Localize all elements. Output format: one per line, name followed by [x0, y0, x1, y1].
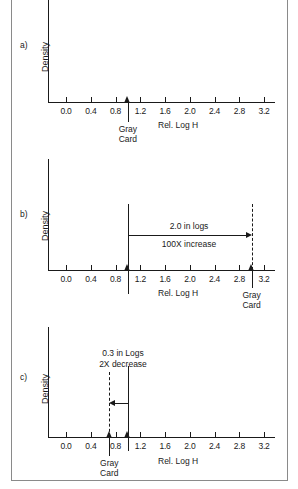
panel-a-y-axis	[48, 0, 49, 102]
panel-a-tick-3	[140, 97, 141, 102]
panel-b-ticklabel-3: 1.2	[128, 274, 152, 284]
panel-b-tick-4	[165, 265, 166, 270]
panel-c-gray-card-label-line2: Card	[100, 468, 118, 478]
panel-c-measure-arrowhead	[109, 400, 115, 406]
panel-a-ticklabel-0: 0.0	[54, 106, 78, 116]
panel-a-x-axis	[48, 102, 275, 103]
panel-b-gray-card-stem	[252, 270, 253, 288]
panel-c: c) Density 0.0 0.4 0.8 1.2 1.6 2.0 2.4 2…	[0, 326, 298, 489]
panel-c-ticklabel-7: 2.8	[227, 441, 251, 451]
panel-b-ticklabel-0: 0.0	[54, 274, 78, 284]
panel-b-ticklabel-8: 3.2	[252, 274, 276, 284]
panel-b-measure-arrow-shaft	[128, 235, 246, 236]
panel-c-x-axis-title: Rel. Log H	[158, 456, 198, 466]
panel-c-measure-arrow-shaft	[115, 403, 128, 404]
panel-c-y-axis	[48, 327, 49, 437]
panel-a-ticklabel-6: 2.4	[203, 106, 227, 116]
panel-c-reference-arrowhead	[124, 431, 130, 438]
panel-b-tick-3	[140, 265, 141, 270]
panel-b-tick-2	[116, 265, 117, 270]
panel-b-reference-stem	[128, 270, 129, 294]
panel-c-tick-7	[239, 432, 240, 437]
panel-b-y-axis	[48, 159, 49, 270]
panel-c-gray-card-arrowhead	[106, 431, 112, 438]
panel-c-reference-line	[128, 366, 129, 437]
panel-b: b) Density 0.0 0.4 0.8 1.2 1.6 2.0 2.4 2…	[0, 163, 298, 326]
panel-b-gray-card-arrowhead	[248, 264, 254, 271]
panel-a-ticklabel-3: 1.2	[128, 106, 152, 116]
panel-c-tick-2	[116, 432, 117, 437]
panel-c-ticklabel-4: 1.6	[153, 441, 177, 451]
panel-a-ticklabel-2: 0.8	[104, 106, 128, 116]
panel-a-ticklabel-4: 1.6	[153, 106, 177, 116]
panel-b-reference-line	[128, 204, 129, 270]
panel-c-gray-card-label-line1: Gray	[100, 458, 118, 468]
panel-b-gray-card-label: Gray Card	[227, 290, 277, 310]
panel-c-ticklabel-2: 0.8	[104, 441, 128, 451]
panel-a-letter: a)	[20, 40, 28, 50]
panel-b-x-axis-title: Rel. Log H	[158, 288, 198, 298]
panel-a-ticklabel-1: 0.4	[79, 106, 103, 116]
panel-b-ticklabel-1: 0.4	[79, 274, 103, 284]
panel-b-ticklabel-6: 2.4	[203, 274, 227, 284]
panel-c-reference-stem	[128, 437, 129, 451]
panel-b-tick-5	[190, 265, 191, 270]
panel-a-gray-card-label: Gray Card	[103, 124, 153, 144]
panel-c-tick-0	[66, 432, 67, 437]
panel-a-tick-2	[116, 97, 117, 102]
panel-b-reference-arrowhead	[124, 264, 130, 271]
panel-c-annotation-logs: 0.3 in Logs	[78, 348, 168, 359]
panel-a-tick-5	[190, 97, 191, 102]
panel-c-tick-4	[165, 432, 166, 437]
panel-c-tick-3	[140, 432, 141, 437]
panel-a-gray-card-stem	[128, 102, 129, 122]
panel-b-annotation-logs: 2.0 in logs	[139, 221, 239, 232]
panel-b-gray-card-line	[252, 204, 253, 270]
panel-c-gray-card-label: Gray Card	[84, 458, 134, 478]
panel-a-gray-card-arrowhead	[124, 96, 130, 103]
panel-a: a) Density 0.0 0.4 0.8 1.2 1.6 2.0 2.4 2…	[0, 0, 298, 163]
panel-b-ticklabel-7: 2.8	[227, 274, 251, 284]
panel-a-tick-4	[165, 97, 166, 102]
panel-a-tick-6	[215, 97, 216, 102]
panel-c-letter: c)	[20, 372, 27, 382]
panel-a-ticklabel-8: 3.2	[252, 106, 276, 116]
panel-c-x-axis	[48, 437, 275, 438]
panel-c-ticklabel-5: 2.0	[178, 441, 202, 451]
figure-container: a) Density 0.0 0.4 0.8 1.2 1.6 2.0 2.4 2…	[0, 0, 298, 489]
panel-b-ticklabel-4: 1.6	[153, 274, 177, 284]
panel-c-ticklabel-1: 0.4	[79, 441, 103, 451]
panel-a-gray-card-label-line2: Card	[119, 134, 137, 144]
panel-b-x-axis	[48, 270, 275, 271]
panel-c-ticklabel-6: 2.4	[203, 441, 227, 451]
panel-c-gray-card-stem	[109, 437, 110, 456]
panel-c-ticklabel-8: 3.2	[252, 441, 276, 451]
panel-c-tick-1	[91, 432, 92, 437]
panel-b-tick-8	[264, 265, 265, 270]
panel-b-gray-card-label-line1: Gray	[242, 290, 260, 300]
panel-c-ticklabel-3: 1.2	[128, 441, 152, 451]
panel-b-measure-arrowhead	[246, 232, 252, 238]
panel-b-gray-card-label-line2: Card	[242, 300, 260, 310]
panel-c-tick-6	[215, 432, 216, 437]
panel-b-letter: b)	[20, 209, 28, 219]
panel-b-tick-7	[239, 265, 240, 270]
panel-c-annotation-decrease: 2X decrease	[78, 359, 168, 370]
panel-b-ticklabel-2: 0.8	[104, 274, 128, 284]
panel-a-ticklabel-7: 2.8	[227, 106, 251, 116]
panel-b-annotation-increase: 100X increase	[139, 239, 239, 250]
panel-a-tick-1	[91, 97, 92, 102]
panel-a-gray-card-label-line1: Gray	[119, 124, 137, 134]
panel-c-ticklabel-0: 0.0	[54, 441, 78, 451]
panel-c-tick-5	[190, 432, 191, 437]
panel-a-tick-7	[239, 97, 240, 102]
panel-b-tick-0	[66, 265, 67, 270]
panel-a-tick-0	[66, 97, 67, 102]
panel-c-tick-8	[264, 432, 265, 437]
panel-b-tick-6	[215, 265, 216, 270]
panel-b-tick-1	[91, 265, 92, 270]
panel-a-ticklabel-5: 2.0	[178, 106, 202, 116]
panel-a-x-axis-title: Rel. Log H	[158, 120, 198, 130]
panel-b-ticklabel-5: 2.0	[178, 274, 202, 284]
panel-a-tick-8	[264, 97, 265, 102]
